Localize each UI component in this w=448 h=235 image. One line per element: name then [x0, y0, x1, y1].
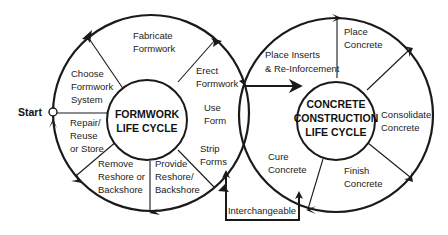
step-finish-concrete: Finish Concrete [344, 165, 383, 189]
step-place-inserts: Place Inserts & Re-Inforcement [265, 49, 340, 74]
interchangeable-label: Interchangeable [228, 205, 296, 216]
concrete-center-subtitle-2: LIFE CYCLE [305, 126, 366, 138]
step-place-concrete: Place Concrete [344, 26, 383, 50]
start-node [49, 108, 57, 116]
step-choose-formwork-system: Choose Formwork System [71, 68, 113, 105]
svg-text:Place Inserts: Place Inserts [265, 49, 320, 60]
svg-text:Backshore: Backshore [98, 184, 143, 195]
svg-text:Finish: Finish [344, 165, 369, 176]
svg-text:Erect: Erect [196, 65, 219, 76]
svg-text:Repair/: Repair/ [70, 117, 101, 128]
svg-text:Provide: Provide [155, 158, 187, 169]
step-strip-forms: Strip Forms [200, 143, 227, 167]
svg-text:Consolidate: Consolidate [381, 109, 431, 120]
svg-text:Strip: Strip [200, 143, 220, 154]
step-fabricate-formwork: Fabricate Formwork [133, 30, 175, 54]
arrow-icon [218, 184, 229, 192]
formwork-center-subtitle: LIFE CYCLE [116, 122, 177, 134]
formwork-center-title: FORMWORK [115, 108, 180, 120]
svg-text:Reuse: Reuse [70, 130, 97, 141]
life-cycle-diagram: FORMWORK LIFE CYCLE Choose Formwork Syst… [0, 0, 448, 235]
svg-text:& Re-Inforcement: & Re-Inforcement [265, 63, 340, 74]
step-provide-reshore: Provide Reshore/ Backshore [155, 158, 200, 195]
step-cure-concrete: Cure Concrete [268, 151, 307, 175]
start-label: Start [18, 106, 42, 118]
svg-text:Cure: Cure [268, 151, 289, 162]
spoke [308, 159, 323, 209]
svg-text:Fabricate: Fabricate [133, 30, 173, 41]
step-use-form: Use Form [204, 102, 226, 126]
formwork-cycle: FORMWORK LIFE CYCLE Choose Formwork Syst… [49, 15, 249, 215]
formwork-center-circle [107, 80, 187, 160]
svg-text:Concrete: Concrete [381, 122, 420, 133]
step-consolidate-concrete: Consolidate Concrete [381, 109, 431, 133]
concrete-center-title: CONCRETE [307, 98, 366, 110]
svg-text:Choose: Choose [71, 68, 104, 79]
svg-text:Concrete: Concrete [344, 178, 383, 189]
svg-text:Formwork: Formwork [196, 78, 238, 89]
spoke [368, 143, 410, 177]
svg-text:or Store: or Store [70, 143, 104, 154]
svg-text:Place: Place [344, 26, 368, 37]
svg-text:Use: Use [204, 102, 221, 113]
svg-text:Concrete: Concrete [344, 39, 383, 50]
svg-text:Remove: Remove [98, 158, 133, 169]
step-repair-reuse-store: Repair/ Reuse or Store [70, 117, 104, 154]
svg-text:Forms: Forms [200, 156, 227, 167]
step-erect-formwork: Erect Formwork [196, 65, 238, 89]
concrete-center-subtitle: CONSTRUCTION [294, 112, 379, 124]
svg-text:Backshore: Backshore [155, 184, 200, 195]
spoke [367, 51, 408, 90]
svg-text:Reshore/: Reshore/ [155, 171, 194, 182]
svg-text:Reshore or: Reshore or [98, 171, 145, 182]
svg-text:Form: Form [204, 115, 226, 126]
svg-text:Formwork: Formwork [71, 81, 113, 92]
svg-text:Concrete: Concrete [268, 164, 307, 175]
concrete-cycle: CONCRETE CONSTRUCTION LIFE CYCLE Place I… [239, 14, 433, 214]
svg-text:Formwork: Formwork [133, 43, 175, 54]
step-remove-reshore: Remove Reshore or Backshore [98, 158, 145, 195]
svg-text:System: System [71, 94, 103, 105]
